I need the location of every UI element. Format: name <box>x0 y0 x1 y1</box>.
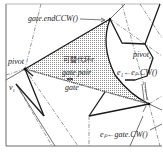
top-vertex-point <box>109 18 111 20</box>
pivot-point <box>23 67 26 70</box>
label-gate-end-ccw: gate.endCCW() <box>28 14 78 23</box>
gate-end-point <box>148 103 151 106</box>
label-gate-pair: gate pair <box>62 68 92 77</box>
label-ep-assign: eₚ←gate.CW() <box>100 130 148 139</box>
label-replaceable-ring: 可替代环r <box>63 55 94 64</box>
label-v1: v1 <box>9 83 15 93</box>
label-pivot: pivot <box>7 57 25 66</box>
gate-pivot-diagram: gate.endCCW() pivot pivote 可替代环r gate pa… <box>0 0 163 153</box>
label-gate: gate <box>65 83 79 92</box>
label-e1-assign: e₁←eₚ.CW() <box>117 68 158 77</box>
